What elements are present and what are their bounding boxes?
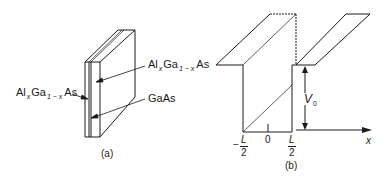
label-text: Al <box>16 86 26 98</box>
fraction-numerator: L <box>288 135 296 147</box>
label-algaas-left: AlxGa1 − xAs <box>16 87 77 98</box>
label-text: Al <box>148 58 158 70</box>
tick-l-over-2: L 2 <box>288 135 296 158</box>
label-algaas-top: AlxGa1 − xAs <box>148 59 209 70</box>
label-sub: 1 − x <box>47 93 62 100</box>
tick-zero: 0 <box>265 135 271 145</box>
label-text: As <box>64 86 77 98</box>
tick-minus-sign: − <box>233 140 239 150</box>
label-text: Ga <box>163 58 178 70</box>
label-text: V <box>304 92 312 106</box>
potential-well <box>216 14 370 132</box>
caption-a: (a) <box>101 149 113 159</box>
axis-label-x: x <box>366 136 371 146</box>
layered-slab <box>85 30 135 137</box>
fraction-denominator: 2 <box>288 147 296 158</box>
label-text: As <box>196 58 209 70</box>
fraction-numerator: L <box>240 135 248 147</box>
fraction-denominator: 2 <box>240 147 248 158</box>
label-arrows <box>72 66 145 118</box>
x-axis <box>296 127 372 133</box>
label-sub: 0 <box>313 100 317 107</box>
caption-b: (b) <box>285 161 297 171</box>
label-sub: 1 − x <box>179 65 194 72</box>
label-sub: x <box>159 65 163 72</box>
tick-minus-l-over-2: L 2 <box>240 135 248 158</box>
label-v0: V0 <box>303 93 318 105</box>
label-gaas: GaAs <box>148 93 176 104</box>
label-text: Ga <box>31 86 46 98</box>
label-sub: x <box>27 93 31 100</box>
